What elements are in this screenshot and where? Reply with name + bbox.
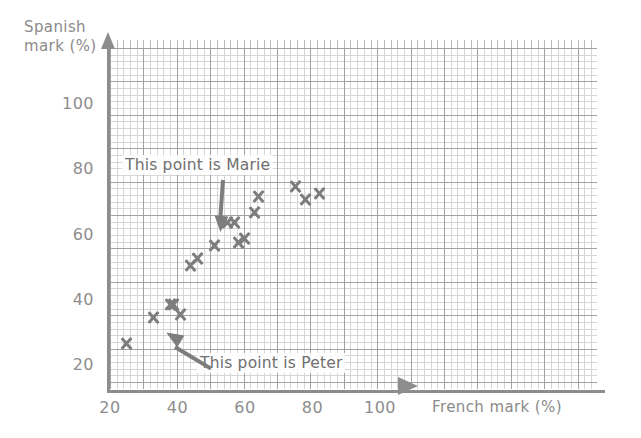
- data-point: [312, 186, 327, 201]
- data-point: [227, 215, 242, 230]
- x-tick-label-60: 60: [224, 398, 266, 417]
- x-tick-label-20: 20: [89, 398, 131, 417]
- data-point: [248, 205, 263, 220]
- scatter-plot-figure: Spanish mark (%) French mark (%) 2040608…: [0, 0, 641, 438]
- x-axis-title: French mark (%): [432, 398, 562, 417]
- y-axis-title: Spanish mark (%): [24, 18, 97, 56]
- x-axis-arrow-icon: [398, 377, 418, 395]
- annotation-marie-arrow-head: [213, 216, 228, 233]
- data-point: [207, 238, 222, 253]
- data-point: [119, 336, 134, 351]
- grid-major: [110, 48, 597, 389]
- x-tick-label-80: 80: [292, 398, 334, 417]
- y-tick-label-60: 60: [52, 225, 94, 244]
- y-tick-label-40: 40: [52, 290, 94, 309]
- x-axis-line: [107, 390, 605, 393]
- plot-area: [110, 48, 597, 389]
- y-tick-label-20: 20: [52, 355, 94, 374]
- data-point: [190, 251, 205, 266]
- y-axis-arrow-icon: [101, 32, 115, 49]
- data-point-peter: [173, 307, 188, 322]
- annotation-marie: This point is Marie: [122, 155, 273, 175]
- y-tick-label-100: 100: [52, 94, 94, 113]
- data-point: [238, 231, 253, 246]
- annotation-peter: This point is Peter: [197, 353, 345, 373]
- x-tick-label-40: 40: [157, 398, 199, 417]
- data-point: [146, 310, 161, 325]
- y-axis-line: [107, 46, 110, 393]
- x-tick-label-100: 100: [359, 398, 401, 417]
- y-tick-label-80: 80: [52, 159, 94, 178]
- data-point: [251, 189, 266, 204]
